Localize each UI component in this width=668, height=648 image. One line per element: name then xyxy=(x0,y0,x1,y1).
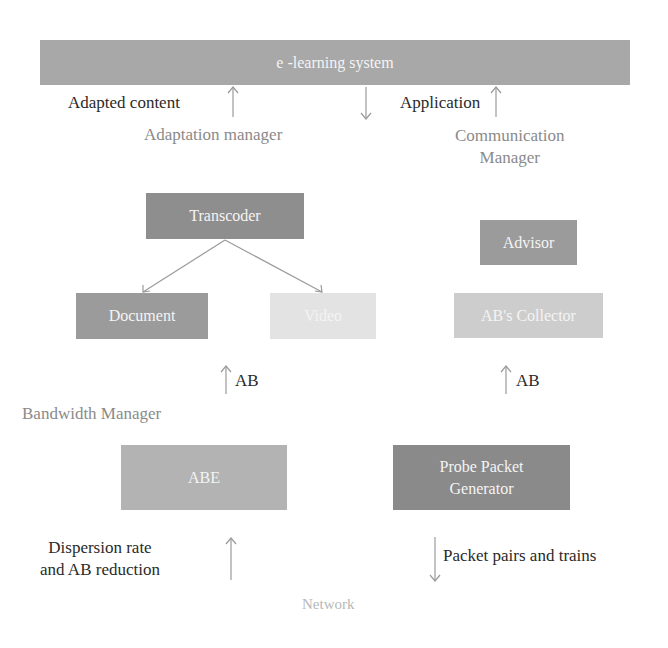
transcoder-box: Transcoder xyxy=(146,193,304,239)
bandwidth-manager-label: Bandwidth Manager xyxy=(22,404,161,424)
dispersion-line2: and AB reduction xyxy=(40,560,160,579)
dispersion-rate-label: Dispersion rate and AB reduction xyxy=(40,537,160,581)
branch-to-document xyxy=(143,240,225,292)
communication-manager-label: Communication Manager xyxy=(455,125,565,169)
probe-packet-generator-box: Probe Packet Generator xyxy=(393,445,570,510)
ab-collector-box: AB's Collector xyxy=(454,293,603,338)
abe-label: ABE xyxy=(188,468,220,487)
probe-line1-label: Probe Packet xyxy=(440,456,524,478)
branch-to-video xyxy=(225,240,322,292)
probe-line2-label: Generator xyxy=(450,478,514,500)
abe-box: ABE xyxy=(121,445,287,510)
packet-pairs-label: Packet pairs and trains xyxy=(443,546,596,566)
document-label: Document xyxy=(109,306,176,325)
communication-manager-line2: Manager xyxy=(480,148,540,167)
advisor-box: Advisor xyxy=(480,220,577,265)
adapted-content-label: Adapted content xyxy=(68,93,180,113)
ab-left-label: AB xyxy=(235,371,259,391)
communication-manager-line1: Communication xyxy=(455,126,565,145)
ab-right-label: AB xyxy=(516,371,540,391)
application-label: Application xyxy=(400,93,480,113)
video-label: Video xyxy=(304,306,342,325)
ab-collector-label: AB's Collector xyxy=(481,306,576,325)
document-box: Document xyxy=(76,293,208,339)
advisor-label: Advisor xyxy=(503,233,555,252)
network-label: Network xyxy=(302,596,355,613)
transcoder-label: Transcoder xyxy=(189,206,260,225)
video-box: Video xyxy=(270,293,376,339)
dispersion-line1: Dispersion rate xyxy=(48,538,151,557)
adaptation-manager-label: Adaptation manager xyxy=(144,125,282,145)
